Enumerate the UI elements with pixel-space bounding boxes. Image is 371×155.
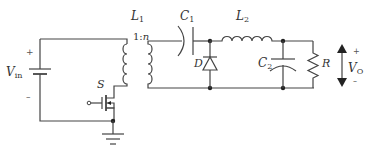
- gate-terminal: [87, 101, 91, 105]
- l1-label-main: L: [130, 9, 139, 23]
- turns-ratio-label: 1:n: [133, 31, 149, 42]
- switch-label: S: [97, 78, 105, 91]
- capacitor-c2: [270, 41, 296, 88]
- vin-plus-sign: +: [26, 47, 34, 57]
- vin-minus-sign: –: [26, 92, 31, 102]
- input-source-vin: [29, 39, 127, 121]
- vo-label: VO: [348, 61, 364, 76]
- mosfet-switch-s: [87, 93, 114, 121]
- l2-label-sub: 2: [244, 15, 249, 24]
- vo-label-sub: O: [357, 67, 364, 76]
- vo-plus-sign: +: [353, 47, 360, 56]
- ratio-prefix: 1:: [133, 31, 143, 42]
- vin-label-sub: in: [15, 71, 23, 80]
- vin-label: Vin: [6, 65, 22, 80]
- c2-label-sub: 2: [267, 62, 272, 71]
- l2-label-main: L: [235, 9, 244, 23]
- l2-label: L2: [235, 9, 249, 24]
- c2-label-main: C: [258, 56, 267, 70]
- ratio-n: n: [143, 31, 149, 42]
- transformer-primary-coil: [114, 44, 127, 93]
- c1-label-main: C: [180, 9, 189, 23]
- resistor-r: [308, 41, 318, 88]
- diode-d: [203, 41, 217, 88]
- l1-label: L1: [130, 9, 144, 24]
- vo-minus-sign: –: [353, 77, 357, 86]
- mosfet-arrow-icon: [107, 101, 111, 105]
- capacitor-c1: [178, 26, 210, 56]
- c2-label: C2: [258, 56, 272, 71]
- c1-label-sub: 1: [189, 15, 194, 24]
- circuit-diagram: + – Vin S L1 1:n: [0, 0, 371, 155]
- l1-label-sub: 1: [139, 15, 144, 24]
- ground-icon: [102, 119, 124, 144]
- diode-label: D: [193, 57, 203, 70]
- transformer-secondary-coil: [148, 41, 314, 88]
- c1-label: C1: [180, 9, 194, 24]
- resistor-label: R: [321, 57, 330, 70]
- output-voltage-arrow-icon: [337, 44, 347, 87]
- inductor-l2: [210, 37, 313, 41]
